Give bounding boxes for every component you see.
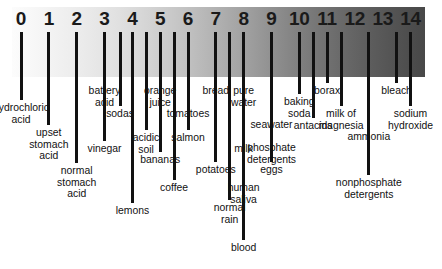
substance-label: sodas <box>106 108 134 120</box>
substance-label: coffee <box>160 182 188 194</box>
substance-label: phosphate detergents <box>247 142 296 165</box>
substance-label: milk of magnesia <box>318 108 363 131</box>
substance-label: sodium hydroxide <box>388 108 433 131</box>
substance-label: bleach <box>381 85 412 97</box>
substance-label: ammonia <box>347 131 390 143</box>
substance-label: eggs <box>260 164 283 176</box>
leader-line <box>75 32 78 163</box>
substance-label: normal rain <box>214 202 246 225</box>
substance-label: bread <box>203 85 230 97</box>
substance-label: borax <box>314 85 340 97</box>
substance-label: hydrochloric acid <box>0 102 49 125</box>
substance-label: bananas <box>140 154 180 166</box>
substance-label: pure water <box>231 85 256 108</box>
ph-tick-14: 14 <box>393 8 427 30</box>
substance-label: orange juice <box>144 85 176 108</box>
leader-line <box>326 32 329 83</box>
substance-label: lemons <box>116 205 150 217</box>
substance-label: baking soda <box>284 96 315 119</box>
substance-label: seawater <box>250 119 292 131</box>
leader-line <box>298 32 301 94</box>
substance-label: human saliva <box>228 182 260 205</box>
substance-label: vinegar <box>87 143 121 155</box>
substance-label: normal stomach acid <box>57 165 96 200</box>
substance-label: tomatoes <box>167 108 210 120</box>
leader-line <box>214 32 217 162</box>
ph-scale-diagram: 01234567891011121314 hydrochloric acidup… <box>0 0 442 269</box>
substance-label: potatoes <box>196 164 236 176</box>
substance-label: upset stomach acid <box>29 127 68 162</box>
substance-label: acidic soil <box>133 132 160 155</box>
leader-line <box>367 32 370 175</box>
substance-label: nonphosphate detergents <box>336 177 402 200</box>
leader-line <box>20 32 23 100</box>
substance-label: blood <box>231 242 256 254</box>
substance-label: battery acid <box>89 85 121 108</box>
substance-label: salmon <box>171 132 205 144</box>
leader-line <box>145 32 148 130</box>
leader-line <box>395 32 398 83</box>
